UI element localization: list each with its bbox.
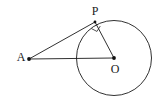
vertex-dot-a xyxy=(27,57,31,61)
label-point-a: A xyxy=(17,50,26,64)
segment-a-to-p xyxy=(29,22,95,59)
segment-a-to-o xyxy=(29,58,114,59)
vertex-dot-o xyxy=(112,56,116,60)
vertex-dot-p xyxy=(94,21,97,24)
label-point-o: O xyxy=(111,62,120,76)
segment-p-to-o xyxy=(95,22,114,58)
geometry-diagram: A P O xyxy=(0,0,157,104)
label-point-p: P xyxy=(92,4,99,18)
geometry-figure-canvas: A P O xyxy=(0,0,157,104)
